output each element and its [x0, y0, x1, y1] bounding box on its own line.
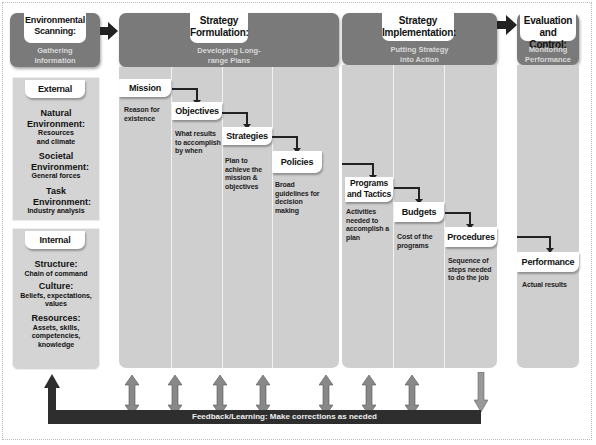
procedures-label: Procedures: [445, 227, 497, 247]
objectives-label: Objectives: [172, 102, 222, 120]
column-divider: [272, 67, 273, 368]
phase-evaluation-control: Evaluation and Control: Monitoring Perfo…: [517, 13, 579, 65]
policies-desc: Broad guidelines for decision making: [275, 181, 323, 215]
budgets-desc: Cost of the programs: [397, 233, 443, 250]
internal-environment-panel: Internal Structure: Chain of command Cul…: [12, 228, 100, 370]
culture: Culture: Beliefs, expectations, values: [13, 281, 99, 309]
performance-label: Performance: [517, 252, 579, 272]
resources: Resources: Assets, skills, competencies,…: [13, 313, 99, 349]
step-arrow-icon: [222, 112, 248, 124]
strategies-label: Strategies: [222, 127, 272, 145]
mission-label: Mission: [119, 79, 171, 97]
internal-label: Internal: [25, 231, 85, 249]
feedback-bar: Feedback/Learning: Make corrections as n…: [48, 410, 481, 424]
programs-label: Programs and Tactics: [345, 177, 393, 202]
procedures-desc: Sequence of steps needed to do the job: [448, 257, 494, 283]
double-arrow-icon: [125, 375, 139, 415]
step-arrow-icon: [272, 136, 298, 148]
phase-title: Evaluation and Control:: [520, 13, 576, 41]
double-arrow-icon: [319, 375, 333, 415]
phase-subtitle: Monitoring Performance: [517, 45, 579, 65]
phase-title: Environmental Scanning:: [24, 13, 86, 43]
step-arrow-icon: [342, 163, 374, 175]
societal-environment: Societal Environment: General forces: [13, 151, 99, 181]
step-arrow-icon: [517, 236, 551, 248]
double-arrow-icon: [405, 375, 419, 415]
arrow-right-icon: [100, 22, 118, 40]
phase-subtitle: Putting Strategy into Action: [342, 45, 497, 65]
phase-subtitle: Developing Long-range Plans: [119, 46, 339, 66]
phase-strategy-implementation: Strategy Implementation: Putting Strateg…: [342, 13, 497, 65]
arrow-right-icon: [497, 15, 517, 35]
natural-environment: Natural Environment: Resources and clima…: [13, 108, 99, 146]
performance-desc: Actual results: [522, 281, 578, 290]
mission-desc: Reason for existence: [124, 106, 168, 123]
strategies-desc: Plan to achieve the mission & objectives: [225, 157, 271, 191]
external-label: External: [25, 80, 85, 98]
phase-title: Strategy Implementation:: [382, 13, 454, 41]
programs-desc: Activities needed to accomplish a plan: [346, 208, 392, 242]
feedback-riser: [48, 386, 56, 412]
phase-strategy-formulation: Strategy Formulation: Developing Long-ra…: [119, 13, 339, 67]
evaluation-column: [517, 65, 579, 368]
phase-title: Strategy Formulation:: [190, 13, 248, 43]
phase-subtitle: Gathering Information: [10, 46, 100, 66]
down-arrow-icon: [474, 372, 488, 412]
feedback-label: Feedback/Learning: Make corrections as n…: [48, 411, 481, 423]
policies-label: Policies: [272, 151, 322, 173]
external-environment-panel: External Natural Environment: Resources …: [12, 77, 100, 221]
step-arrow-icon: [172, 88, 198, 100]
budgets-label: Budgets: [394, 202, 444, 222]
structure: Structure: Chain of command: [13, 259, 99, 278]
double-arrow-icon: [256, 375, 270, 415]
up-arrow-icon: [44, 374, 60, 388]
double-arrow-icon: [213, 375, 227, 415]
step-arrow-icon: [445, 212, 471, 224]
double-arrow-icon: [168, 375, 182, 415]
step-arrow-icon: [394, 187, 420, 199]
task-environment: Task Environment: Industry analysis: [13, 186, 99, 216]
objectives-desc: What results to accomplish by when: [175, 130, 221, 156]
phase-environmental-scanning: Environmental Scanning: Gathering Inform…: [10, 13, 100, 67]
double-arrow-icon: [362, 375, 376, 415]
